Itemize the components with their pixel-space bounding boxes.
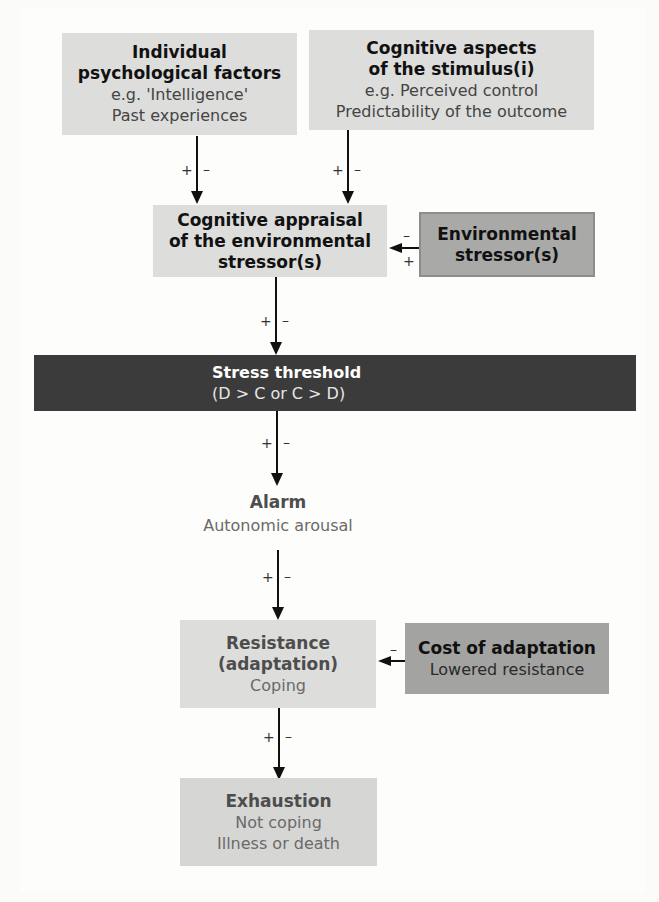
minus-sign: – xyxy=(403,228,410,242)
resistance-title-2: (adaptation) xyxy=(218,654,338,675)
plus-sign: + xyxy=(260,314,272,328)
minus-sign: – xyxy=(285,729,292,743)
stress-threshold-bar: Stress threshold (D > C or C > D) xyxy=(34,355,636,411)
alarm-sub: Autonomic arousal xyxy=(178,514,378,538)
arrow-aspects-to-appraisal xyxy=(347,130,349,192)
plus-sign: + xyxy=(403,254,415,268)
minus-sign: – xyxy=(283,435,290,449)
cognitive-aspects-title-2: of the stimulus(i) xyxy=(369,59,535,80)
arrow-individual-to-appraisal xyxy=(196,136,198,192)
plus-sign: + xyxy=(261,436,273,450)
cognitive-aspects-sub-1: e.g. Perceived control xyxy=(365,80,539,101)
exhaustion-title: Exhaustion xyxy=(225,791,331,812)
minus-sign: – xyxy=(390,642,397,656)
appraisal-title-2: of the environmental xyxy=(169,231,371,252)
alarm-title: Alarm xyxy=(178,490,378,514)
arrowhead-down-icon xyxy=(342,191,354,204)
alarm-stage: Alarm Autonomic arousal xyxy=(178,490,378,538)
individual-sub-2: Past experiences xyxy=(112,105,247,126)
plus-sign: + xyxy=(263,730,275,744)
arrowhead-down-icon xyxy=(191,191,203,204)
cognitive-aspects-box: Cognitive aspects of the stimulus(i) e.g… xyxy=(309,30,594,130)
arrow-appraisal-to-threshold xyxy=(275,277,277,343)
plus-sign: + xyxy=(262,570,274,584)
minus-sign: – xyxy=(282,313,289,327)
minus-sign: – xyxy=(203,162,210,176)
resistance-title-1: Resistance xyxy=(226,633,330,654)
plus-sign: + xyxy=(181,163,193,177)
cost-of-adaptation-box: Cost of adaptation Lowered resistance xyxy=(405,623,609,694)
arrowhead-down-icon xyxy=(270,342,282,355)
arrowhead-down-icon xyxy=(271,473,283,486)
minus-sign: – xyxy=(284,569,291,583)
individual-title-1: Individual xyxy=(132,42,227,63)
cost-title: Cost of adaptation xyxy=(418,638,596,659)
threshold-title: Stress threshold xyxy=(212,362,361,383)
individual-sub-1: e.g. 'Intelligence' xyxy=(111,84,248,105)
arrowhead-down-icon xyxy=(272,607,284,620)
individual-title-2: psychological factors xyxy=(78,63,281,84)
arrowhead-left-icon xyxy=(389,243,402,253)
resistance-box: Resistance (adaptation) Coping xyxy=(180,620,376,708)
exhaustion-sub-1: Not coping xyxy=(235,812,322,833)
resistance-sub: Coping xyxy=(250,675,306,696)
arrow-threshold-to-alarm xyxy=(276,411,278,474)
plus-sign: + xyxy=(332,163,344,177)
page-background xyxy=(20,8,645,893)
individual-factors-box: Individual psychological factors e.g. 'I… xyxy=(62,33,297,135)
arrow-cost-to-resistance xyxy=(390,660,405,662)
exhaustion-sub-2: Illness or death xyxy=(217,833,340,854)
appraisal-title-3: stressor(s) xyxy=(218,252,322,273)
arrow-resistance-to-exhaustion xyxy=(278,708,280,768)
arrow-alarm-to-resistance xyxy=(277,550,279,608)
exhaustion-box: Exhaustion Not coping Illness or death xyxy=(180,778,377,866)
cognitive-appraisal-box: Cognitive appraisal of the environmental… xyxy=(153,205,387,277)
threshold-sub: (D > C or C > D) xyxy=(212,383,345,404)
cognitive-aspects-title-1: Cognitive aspects xyxy=(366,38,536,59)
cognitive-aspects-sub-2: Predictability of the outcome xyxy=(336,101,567,122)
environmental-title-2: stressor(s) xyxy=(455,245,559,266)
arrow-environment-to-appraisal xyxy=(400,247,419,249)
appraisal-title-1: Cognitive appraisal xyxy=(177,210,363,231)
arrowhead-left-icon xyxy=(378,656,391,666)
cost-sub: Lowered resistance xyxy=(430,659,585,680)
minus-sign: – xyxy=(354,162,361,176)
environmental-stressor-box: Environmental stressor(s) xyxy=(419,212,595,277)
environmental-title-1: Environmental xyxy=(437,224,577,245)
